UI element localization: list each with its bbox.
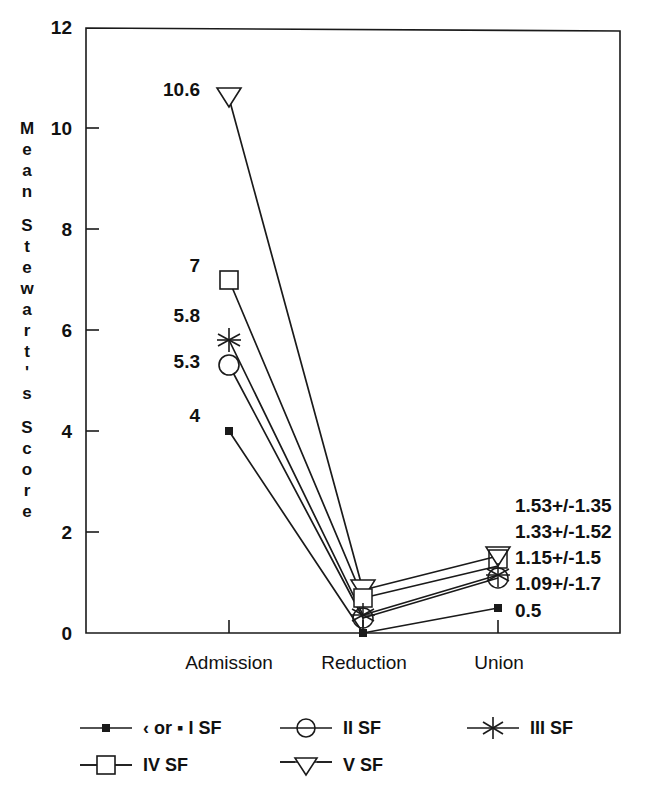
marker-square-icon [220,271,238,289]
marker-asterisk-icon [217,328,241,352]
legend-key-iv [78,752,134,778]
marker-dot-icon [494,604,502,612]
legend-key-i [78,715,134,741]
y-axis-ticks [86,128,99,532]
marker-dot-icon [225,427,233,435]
chart-figure: M e a n S t e w a r t ' s S c o r e 12 1… [0,0,661,789]
marker-square-icon [97,756,115,774]
legend-entry-iv[interactable]: IV SF [78,751,188,779]
legend-entry-v[interactable]: V SF [278,751,383,779]
legend-label-i: ‹ or ▪ I SF [134,719,221,737]
markers-admission [217,88,241,435]
legend-label-ii: II SF [334,719,381,737]
axis-frame [86,28,620,633]
legend-label-iv: IV SF [134,756,188,774]
legend-entry-ii[interactable]: II SF [278,714,381,742]
legend-key-ii [278,715,334,741]
series-line-v [229,98,498,590]
legend-entry-i[interactable]: ‹ or ▪ I SF [78,714,221,742]
legend-key-v [278,752,334,778]
marker-dot-icon [359,629,367,637]
markers-reduction [351,580,375,637]
legend-label-v: V SF [334,756,383,774]
marker-circle-icon [219,355,239,375]
marker-dot-icon [102,724,110,732]
series-line-iii [229,340,498,615]
marker-down-triangle-icon [295,758,317,775]
marker-down-triangle-icon [217,88,241,107]
legend-label-iii: III SF [521,719,573,737]
legend-key-iii [465,715,521,741]
markers-union [486,547,510,612]
chart-legend: ‹ or ▪ I SF II SF [0,700,661,780]
series-line-iv [229,280,498,598]
legend-entry-iii[interactable]: III SF [465,714,573,742]
plot-area [0,0,661,700]
